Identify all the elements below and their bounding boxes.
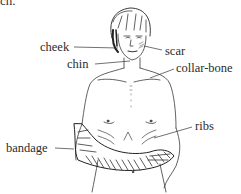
cheek-leader [74, 47, 118, 48]
ribs-leader [154, 127, 192, 138]
label-cheek: cheek [40, 41, 69, 54]
scar-leader [144, 46, 162, 50]
label-collar-bone: collar-bone [176, 62, 233, 75]
label-bandage: bandage [6, 142, 48, 155]
chin-leader [95, 61, 130, 64]
collar-bone-leader [150, 69, 174, 78]
bandage-leader [55, 148, 74, 149]
body-illustration [0, 0, 241, 194]
label-chin: chin [67, 58, 89, 71]
bandage-wrap [74, 124, 174, 171]
label-scar: scar [165, 45, 185, 58]
label-ribs: ribs [195, 120, 214, 133]
